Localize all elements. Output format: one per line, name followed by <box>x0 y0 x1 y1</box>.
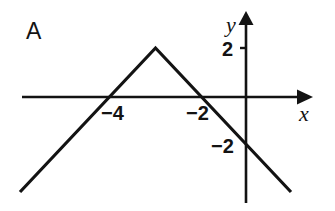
x-axis <box>22 90 313 105</box>
x-axis-label: x <box>299 103 309 125</box>
y-axis-arrowhead-icon <box>239 11 254 25</box>
x-tick-label-negative-4: −4 <box>101 103 124 123</box>
function-curve <box>20 48 291 192</box>
y-axis-label: y <box>226 14 236 36</box>
panel-label: A <box>26 20 42 43</box>
y-axis <box>239 11 254 203</box>
plot-svg <box>0 0 335 211</box>
graph-figure: A y x 2 −2 −4 −2 <box>0 0 335 211</box>
y-tick-label-2: 2 <box>222 39 233 59</box>
y-tick-label-negative-2: −2 <box>211 136 234 156</box>
x-tick-label-negative-2: −2 <box>186 103 209 123</box>
